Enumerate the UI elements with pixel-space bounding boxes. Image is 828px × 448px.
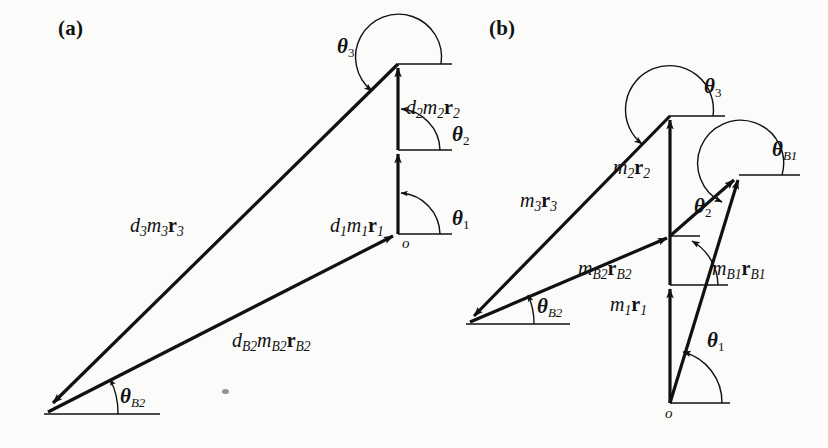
panel-b-angle-arc-thetaB2: [528, 295, 534, 324]
panel-a-label-d2m2r2: d2m2r2: [406, 97, 460, 121]
scan-artifact-speck: [222, 389, 229, 394]
panel-b-label-mB1rB1: mB1rB1: [712, 258, 766, 282]
panel-a-label-dB2mB2rB2: dB2mB2rB2: [232, 330, 311, 354]
panel-a-vector-dB2mB2rB2: [48, 236, 393, 412]
figure-canvas: (a) (b) d1m1r1 d2m2r2 d3m3r3 dB2mB2rB2 θ…: [0, 0, 828, 448]
panel-a-angle-arc-theta1: [401, 193, 440, 234]
panel-b-origin-label: o: [665, 406, 673, 421]
panel-b-label: (b): [489, 16, 515, 41]
panel-a-angle-arc-thetaB2: [110, 379, 118, 414]
panel-b-angle-arc-theta1: [683, 352, 722, 403]
panel-b-angle-label-theta1: θ1: [707, 330, 724, 353]
panel-b-label-m3r3: m3r3: [520, 190, 557, 214]
panel-a-angle-label-theta1: θ1: [452, 208, 469, 231]
panel-b-label-m2r2: m2r2: [613, 157, 650, 181]
panel-b-angle-label-thetaB1: θB1: [772, 139, 797, 162]
panel-b-angle-label-theta2: θ2: [694, 196, 711, 219]
panel-b-angle-arc-thetaB1: [698, 120, 784, 202]
panel-b-label-m1r1: m1r1: [610, 294, 647, 318]
panel-a-angle-label-thetaB2: θB2: [120, 386, 145, 409]
panel-a-angle-label-theta2: θ2: [452, 124, 469, 147]
panel-b-angle-label-theta3: θ3: [704, 76, 721, 99]
panel-a-label-d1m1r1: d1m1r1: [330, 215, 384, 239]
panel-a-label: (a): [58, 16, 83, 41]
panel-b-angle-label-thetaB2: θB2: [537, 296, 562, 319]
panel-b-geometry: [466, 66, 800, 403]
panel-b-vector-m3r3: [474, 116, 670, 316]
panel-a-angle-label-theta3: θ3: [337, 36, 354, 59]
panel-b-label-mB2rB2: mB2rB2: [578, 258, 632, 282]
panel-a-label-d3m3r3: d3m3r3: [130, 215, 184, 239]
panel-a-origin-label: o: [402, 236, 410, 251]
vector-diagram-svg: [0, 0, 828, 448]
